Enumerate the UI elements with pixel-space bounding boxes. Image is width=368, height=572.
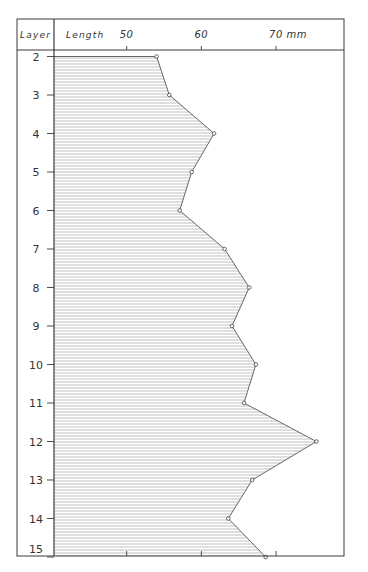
data-point <box>250 478 254 482</box>
layer-label: 6 <box>33 205 40 218</box>
header-length-label: Length <box>66 30 104 40</box>
data-point <box>178 209 182 213</box>
length-area-fill <box>54 57 316 558</box>
layer-label: 2 <box>33 51 40 64</box>
header-row: Layer Length 506070 mm <box>20 29 307 50</box>
data-point <box>315 440 319 444</box>
header-layer-label: Layer <box>20 30 51 40</box>
layer-label: 3 <box>33 89 40 102</box>
layer-label: 10 <box>29 359 43 372</box>
data-point <box>212 132 216 136</box>
data-point <box>167 93 171 97</box>
layer-label: 14 <box>29 513 43 526</box>
plot-area <box>54 55 318 559</box>
layer-label: 9 <box>33 320 40 333</box>
layer-label: 12 <box>29 436 43 449</box>
data-point <box>190 170 194 174</box>
x-tick-label: 60 <box>194 29 208 40</box>
data-point <box>155 55 159 59</box>
layer-label: 15 <box>29 543 43 556</box>
layer-label: 7 <box>33 243 40 256</box>
x-axis-ticks: 506070 mm <box>120 29 307 50</box>
layer-axis-ticks: 23456789101112131415 <box>29 51 54 558</box>
layer-label: 11 <box>29 397 43 410</box>
layer-label: 5 <box>33 166 40 179</box>
layer-length-chart: Layer Length 506070 mm 23456789101112131… <box>0 0 368 572</box>
data-point <box>226 517 230 521</box>
data-point <box>247 286 251 290</box>
layer-label: 13 <box>29 474 43 487</box>
x-tick-label: 50 <box>120 29 134 40</box>
layer-label: 8 <box>33 282 40 295</box>
data-point <box>223 247 227 251</box>
layer-label: 4 <box>33 128 40 141</box>
data-point <box>230 324 234 328</box>
data-point <box>254 363 258 367</box>
x-tick-label: 70 mm <box>269 29 307 40</box>
data-point <box>242 401 246 405</box>
